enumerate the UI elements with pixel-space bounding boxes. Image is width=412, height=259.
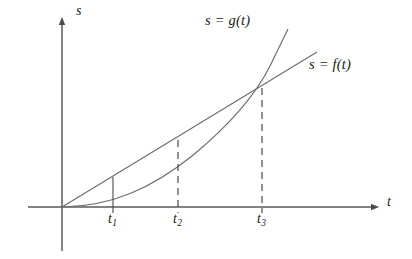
tick-label-t3: t3 (257, 211, 266, 228)
tick-label-t1: t1 (108, 211, 117, 228)
g-curve-curve (62, 29, 288, 207)
figure-canvas: s t s = g(t) s = f(t) t1 t2 t3 (0, 0, 412, 259)
g-curve-label: s = g(t) (205, 12, 250, 29)
tick-label-t3-sub: 3 (261, 218, 266, 228)
diagram-svg (0, 0, 412, 259)
tick-label-t2: t2 (173, 211, 182, 228)
x-axis-label: t (387, 194, 391, 210)
f-curve-label: s = f(t) (309, 56, 351, 73)
tick-label-t1-sub: 1 (112, 218, 117, 228)
y-axis-label: s (76, 3, 81, 19)
f-line-curve (62, 52, 317, 207)
tick-label-t2-sub: 2 (177, 218, 182, 228)
